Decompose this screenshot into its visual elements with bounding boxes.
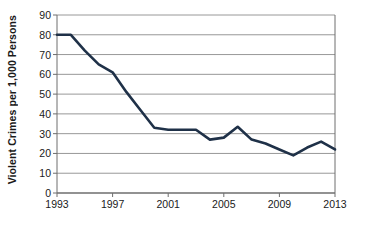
x-axis-tick-labels: 199319972001200520092013 bbox=[0, 196, 365, 216]
x-axis-tick-marks bbox=[53, 15, 335, 197]
axis-lines bbox=[57, 15, 335, 193]
x-tick-label: 2009 bbox=[268, 198, 291, 210]
data-series-line bbox=[57, 35, 335, 156]
violent-crimes-line-chart: Violent Crimes per 1,000 Persons 0102030… bbox=[0, 0, 365, 233]
x-tick-label: 2005 bbox=[212, 198, 235, 210]
x-tick-label: 2013 bbox=[323, 198, 346, 210]
x-tick-label: 1993 bbox=[45, 198, 68, 210]
gridlines bbox=[57, 15, 335, 173]
x-tick-label: 1997 bbox=[101, 198, 124, 210]
x-tick-label: 2001 bbox=[157, 198, 180, 210]
